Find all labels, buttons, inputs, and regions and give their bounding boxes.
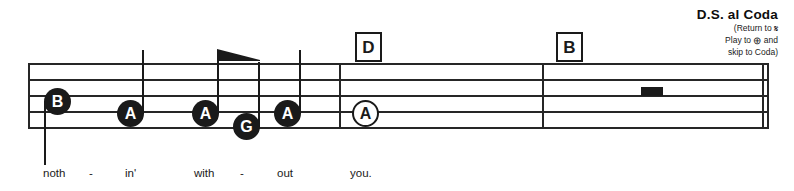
music-score-sheet: D B B A A G A A noth - in' with - out yo…: [0, 0, 794, 191]
lyric-syllable-in: in': [125, 168, 136, 180]
rehearsal-mark-d: D: [355, 32, 382, 62]
ds-line1-prefix: (Return to: [734, 23, 774, 33]
lyric-hyphen-1: -: [89, 168, 93, 180]
notehead-a-2: A: [192, 100, 219, 127]
notehead-a-2-label: A: [200, 106, 212, 122]
lyric-hyphen-2: -: [240, 168, 244, 180]
lyric-syllable-out: out: [277, 168, 293, 180]
final-double-barline-thin-2: [767, 63, 769, 129]
note-stem-down-b: [44, 101, 46, 165]
notehead-b: B: [44, 88, 71, 115]
whole-rest: [641, 87, 663, 96]
ds-al-coda-title: D.S. al Coda: [697, 7, 778, 22]
notehead-a-3-label: A: [282, 106, 294, 122]
note-stem-up-a3: [299, 50, 301, 114]
notehead-a-hollow-label: A: [360, 106, 372, 122]
note-stem-up-a1: [142, 50, 144, 114]
segno-icon: 𝄋: [774, 23, 778, 34]
ds-al-coda-annotation: D.S. al Coda (Return to 𝄋 Play to ⊕ and …: [697, 7, 778, 57]
staff-line-2: [28, 79, 768, 81]
barline-before-rehearsal-d: [339, 63, 341, 129]
notehead-a-3: A: [274, 100, 301, 127]
notehead-b-label: B: [52, 94, 64, 110]
staff-line-1: [28, 63, 768, 65]
notehead-g-label: G: [240, 119, 252, 135]
barline-start: [28, 63, 30, 129]
rehearsal-mark-d-label: D: [362, 39, 374, 56]
notehead-a-1: A: [117, 100, 144, 127]
ds-line2-suffix: and: [761, 35, 778, 45]
ds-line2-prefix: Play to: [725, 35, 753, 45]
barline-before-rehearsal-b: [542, 63, 544, 129]
ds-al-coda-line-1: (Return to 𝄋: [697, 23, 778, 34]
final-double-barline-thin-1: [762, 63, 764, 129]
rehearsal-mark-b: B: [556, 32, 583, 62]
note-stem-up-g-beamed: [258, 62, 260, 127]
eighth-note-beam: [217, 49, 260, 61]
notehead-a-hollow: A: [352, 100, 379, 127]
notehead-a-1-label: A: [125, 106, 137, 122]
ds-al-coda-line-2: Play to ⊕ and: [697, 35, 778, 46]
lyric-syllable-you: you.: [350, 168, 372, 180]
ds-al-coda-line-3: skip to Coda): [697, 47, 778, 57]
staff-line-5: [28, 127, 768, 129]
note-stem-up-a2-beamed: [217, 52, 219, 114]
rehearsal-mark-b-label: B: [563, 39, 575, 56]
lyric-syllable-noth: noth: [43, 168, 65, 180]
lyric-syllable-with: with: [194, 168, 214, 180]
notehead-g: G: [233, 113, 260, 140]
